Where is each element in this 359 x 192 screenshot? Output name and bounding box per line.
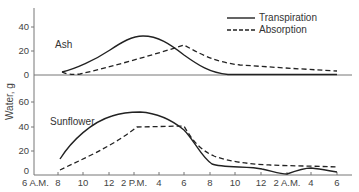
sunflower-ytick-label-40: 40 bbox=[18, 121, 29, 132]
ash-panel-label: Ash bbox=[55, 39, 72, 50]
xtick-label-2am: 2 A.M. bbox=[274, 177, 301, 188]
legend-transpiration-label: Transpiration bbox=[259, 12, 317, 23]
sunflower-transpiration-line bbox=[60, 112, 337, 174]
xtick-label-12am: 12 bbox=[256, 177, 267, 188]
xtick-label-12: 12 bbox=[104, 177, 115, 188]
ash-ytick-label-20: 20 bbox=[18, 45, 29, 56]
xtick-label-6: 6 bbox=[181, 177, 186, 188]
sunflower-ytick-label-60: 60 bbox=[18, 96, 29, 107]
sunflower-ytick-label-0: 0 bbox=[24, 165, 29, 176]
legend: Transpiration Absorption bbox=[227, 12, 317, 35]
xtick-label-6am: 6 A.M. bbox=[22, 177, 49, 188]
sunflower-ytick-label-20: 20 bbox=[18, 145, 29, 156]
xtick-label-8: 8 bbox=[55, 177, 60, 188]
xtick-label-10pm: 10 bbox=[230, 177, 241, 188]
legend-absorption-label: Absorption bbox=[259, 24, 307, 35]
xtick-label-4am: 4 bbox=[308, 177, 313, 188]
sunflower-panel-label: Sunflower bbox=[50, 116, 95, 127]
xtick-label-8pm: 8 bbox=[207, 177, 212, 188]
ash-absorption-line bbox=[62, 45, 337, 74]
chart-canvas: 40 20 0 60 40 20 0 Water, g 6 A.M. 8 10 … bbox=[0, 0, 359, 192]
y-axis-label: Water, g bbox=[4, 83, 15, 120]
xtick-label-6am-end: 6 bbox=[334, 177, 339, 188]
ash-ytick-label-0: 0 bbox=[24, 69, 29, 80]
xtick-label-10: 10 bbox=[78, 177, 89, 188]
xtick-label-4: 4 bbox=[156, 177, 161, 188]
xtick-label-2pm: 2 P.M. bbox=[121, 177, 147, 188]
ash-ytick-label-40: 40 bbox=[18, 21, 29, 32]
